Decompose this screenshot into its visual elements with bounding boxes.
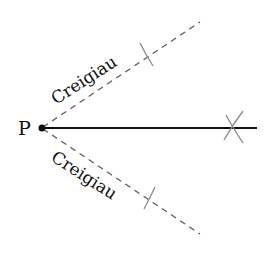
lower-dashed-ray	[43, 129, 200, 234]
point-p-dot	[39, 125, 46, 132]
upper-arc-mark	[140, 43, 153, 66]
point-label: P	[18, 117, 31, 139]
lower-ray-label: Creigiau	[48, 147, 121, 204]
diagram-canvas: P Creigiau Creigiau	[0, 0, 272, 254]
upper-dashed-ray	[43, 22, 200, 127]
angle-bisector-diagram: P Creigiau Creigiau	[0, 0, 272, 254]
